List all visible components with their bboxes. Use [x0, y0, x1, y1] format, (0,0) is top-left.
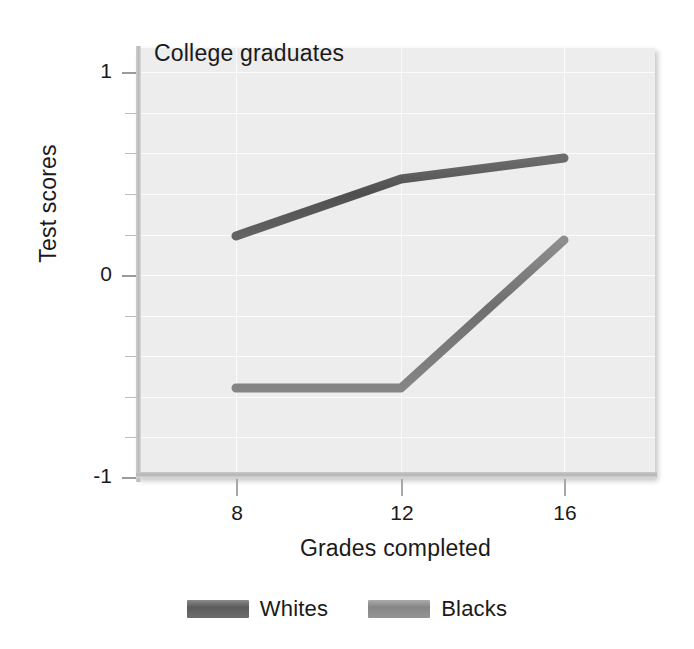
y-tick-mark-major — [122, 477, 136, 479]
legend-swatch-blacks — [368, 600, 430, 618]
y-tick-mark-major — [122, 275, 136, 277]
legend-label: Blacks — [441, 596, 507, 622]
x-tick-mark — [564, 479, 566, 496]
y-tick-mark-minor — [125, 437, 136, 438]
y-tick-mark-minor — [125, 113, 136, 114]
plot-grid — [136, 48, 655, 478]
panel-title: College graduates — [154, 40, 344, 67]
x-tick-mark — [236, 479, 238, 496]
y-tick-label: 0 — [72, 262, 112, 286]
y-tick-mark-minor — [125, 194, 136, 195]
series-line-whites — [236, 158, 564, 236]
axis-spine-bottom — [136, 472, 657, 478]
y-tick-mark-minor — [125, 235, 136, 236]
x-tick-label: 16 — [535, 501, 595, 525]
legend-label: Whites — [260, 596, 328, 622]
legend-swatch-whites — [187, 600, 249, 618]
chart-legend: Whites Blacks — [0, 596, 694, 622]
y-tick-label: -1 — [72, 464, 112, 488]
y-tick-label: 1 — [72, 59, 112, 83]
y-tick-label-group: 1 0 -1 — [60, 0, 112, 649]
y-tick-mark-major — [122, 72, 136, 74]
y-tick-mark-minor — [125, 316, 136, 317]
y-tick-mark-minor — [125, 356, 136, 357]
chart-figure: Test scores 1 0 -1 — [0, 0, 694, 649]
plot-area — [136, 48, 655, 478]
legend-item-whites: Whites — [187, 596, 328, 622]
legend-item-blacks: Blacks — [368, 596, 507, 622]
series-layer — [136, 48, 655, 478]
y-tick-mark-minor — [125, 397, 136, 398]
y-tick-mark-minor — [125, 153, 136, 154]
axis-spine-left — [136, 46, 141, 482]
series-line-blacks — [236, 240, 564, 388]
x-tick-mark — [401, 479, 403, 496]
x-tick-label: 8 — [207, 501, 267, 525]
y-axis-title: Test scores — [35, 94, 62, 314]
x-axis-title: Grades completed — [136, 535, 655, 562]
x-tick-label: 12 — [372, 501, 432, 525]
